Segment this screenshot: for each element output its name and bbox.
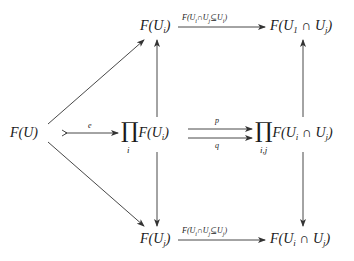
prod-ij-index: i,j: [260, 145, 267, 155]
product-symbol: ∏: [121, 120, 139, 142]
fuj-post: ): [166, 231, 171, 246]
node-product-i: ∏ F(Ui) i: [121, 120, 169, 142]
node-bottom-right: F(Ui ∩ Uj): [270, 232, 330, 248]
label-top-restriction: F(Ui∩Uj⊆Ui): [182, 14, 227, 24]
tr-pre: F(U: [270, 18, 293, 33]
prod-i-term: F(Ui): [139, 126, 170, 142]
node-product-ij: ∏ F(Ui ∩ Uj) i,j: [255, 120, 333, 142]
lb-post: ): [224, 226, 227, 235]
product-symbol: ∏: [255, 120, 273, 142]
fuj-pre: F(U: [140, 231, 163, 246]
label-q: q: [215, 142, 219, 150]
lt-post: ): [224, 13, 227, 22]
node-top-right: F(U1 ∩ Uj): [270, 19, 332, 35]
pij-post: ): [328, 125, 333, 140]
lb-rel: ⊆U: [210, 226, 222, 235]
pi-post: ): [164, 125, 169, 140]
lb-pre: F(U: [182, 226, 195, 235]
br-pre: F(U: [270, 231, 293, 246]
lt-mid: ∩U: [197, 13, 209, 22]
node-fu: F(U): [10, 126, 38, 140]
node-fu-text: F(U): [10, 125, 38, 140]
lt-rel: ⊆U: [210, 13, 222, 22]
node-fui: F(Ui): [140, 19, 171, 35]
br-post: ): [326, 231, 331, 246]
label-p: p: [215, 117, 219, 125]
fui-pre: F(U: [140, 18, 163, 33]
arrow-fu-to-fui: [48, 40, 144, 124]
lb-mid: ∩U: [197, 226, 209, 235]
label-e: e: [88, 122, 92, 130]
pij-pre: F(U: [273, 125, 296, 140]
prod-i-index: i: [127, 145, 130, 155]
br-mid: ∩ U: [296, 231, 323, 246]
lt-pre: F(U: [182, 13, 195, 22]
fui-post: ): [166, 18, 171, 33]
tr-mid: ∩ U: [298, 18, 325, 33]
pi-pre: F(U: [139, 125, 162, 140]
prod-ij-term: F(Ui ∩ Uj): [273, 126, 333, 142]
tr-post: ): [328, 18, 333, 33]
label-bottom-restriction: F(Ui∩Uj⊆Uj): [182, 227, 227, 237]
node-fuj: F(Uj): [140, 232, 171, 248]
pij-mid: ∩ U: [298, 125, 325, 140]
